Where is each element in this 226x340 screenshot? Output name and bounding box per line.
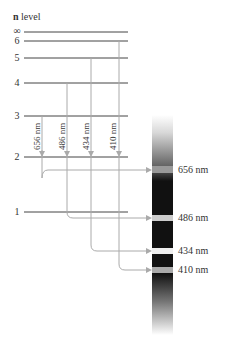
spectrum-label-410: 410 nm bbox=[178, 264, 208, 275]
spectrum-label-486: 486 nm bbox=[178, 212, 208, 223]
transition-label-410: 410 nm bbox=[108, 123, 118, 150]
spectral-line-486 bbox=[152, 215, 173, 221]
transition-label-434: 434 nm bbox=[81, 123, 91, 150]
spectral-line-410 bbox=[152, 267, 173, 273]
transition-arrows bbox=[42, 41, 150, 270]
spectral-line-434 bbox=[152, 248, 173, 254]
spectral-line-656 bbox=[152, 166, 173, 173]
transition-label-486: 486 nm bbox=[57, 123, 67, 150]
transition-label-656: 656 nm bbox=[32, 123, 42, 150]
spectrum-label-656: 656 nm bbox=[178, 164, 208, 175]
spectrum-bar bbox=[152, 115, 173, 335]
spectrum-label-434: 434 nm bbox=[178, 245, 208, 256]
